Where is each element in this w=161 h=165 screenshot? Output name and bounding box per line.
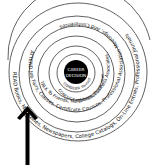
career-decision-spiral-diagram: CAREER DECISION CONSIDER Yourself CONDUC… xyxy=(0,0,161,165)
center-label-line1: CAREER xyxy=(68,67,85,72)
up-arrow-icon xyxy=(17,106,38,165)
center-node: CAREER DECISION xyxy=(64,60,88,84)
spiral-svg: CAREER DECISION CONSIDER Yourself CONDUC… xyxy=(0,0,161,165)
ring-7-partial xyxy=(8,0,150,60)
center-label-line2: DECISION xyxy=(66,73,86,78)
